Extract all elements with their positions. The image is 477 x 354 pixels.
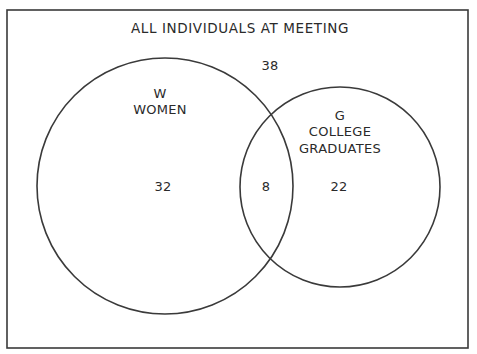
graduates-letter: G (320, 107, 360, 124)
venn-diagram-canvas (0, 0, 477, 354)
women-only-count: 32 (148, 178, 178, 195)
universe-label: ALL INDIVIDUALS AT MEETING (125, 20, 355, 37)
graduates-only-count: 22 (324, 178, 354, 195)
intersection-count: 8 (256, 178, 276, 195)
outside-count: 38 (255, 57, 285, 74)
graduates-label-line1: COLLEGE (290, 123, 390, 140)
women-label: WOMEN (120, 101, 200, 118)
universe-frame (7, 10, 468, 348)
women-letter: W (140, 85, 180, 102)
graduates-label-line2: GRADUATES (280, 140, 400, 157)
